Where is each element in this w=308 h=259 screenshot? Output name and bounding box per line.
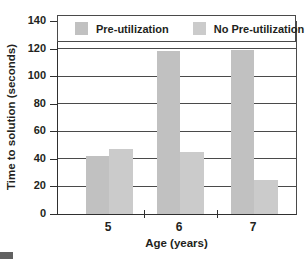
legend-label: No Pre-utilization <box>214 23 304 35</box>
y-tick-label: 40 <box>14 152 46 164</box>
y-tick <box>50 104 57 105</box>
x-category-label: 6 <box>167 220 191 234</box>
bar-7-pre <box>231 50 255 214</box>
bar-6-pre <box>157 51 181 214</box>
y-tick-label: 120 <box>14 42 46 54</box>
x-axis-title: Age (years) <box>57 237 296 249</box>
legend-label: Pre-utilization <box>96 23 169 35</box>
chart-figure: Time to solution (seconds) Pre-utilizati… <box>0 0 308 259</box>
legend-item: No Pre-utilization <box>193 22 304 35</box>
x-tick <box>217 210 218 218</box>
y-tick-label: 100 <box>14 69 46 81</box>
y-tick <box>50 76 57 77</box>
y-tick <box>50 214 57 215</box>
y-tick <box>50 21 57 22</box>
bar-5-nopre <box>109 149 133 214</box>
gridline-120 <box>58 48 296 49</box>
y-tick <box>50 159 57 160</box>
y-tick <box>50 49 57 50</box>
y-tick-label: 60 <box>14 124 46 136</box>
corner-marker <box>0 252 13 259</box>
legend-swatch-icon <box>193 22 206 35</box>
y-tick <box>50 131 57 132</box>
plot-area <box>57 21 297 215</box>
y-tick-label: 20 <box>14 179 46 191</box>
legend-item: Pre-utilization <box>75 22 169 35</box>
y-tick-label: 140 <box>14 14 46 26</box>
x-tick <box>144 210 145 218</box>
legend: Pre-utilizationNo Pre-utilization <box>57 15 296 42</box>
bar-6-nopre <box>180 152 204 214</box>
y-tick <box>50 186 57 187</box>
y-tick-label: 0 <box>14 207 46 219</box>
bar-5-pre <box>86 156 110 214</box>
x-category-label: 5 <box>96 220 120 234</box>
y-tick-label: 80 <box>14 97 46 109</box>
bar-7-nopre <box>254 180 278 214</box>
x-category-label: 7 <box>241 220 265 234</box>
legend-swatch-icon <box>75 22 88 35</box>
